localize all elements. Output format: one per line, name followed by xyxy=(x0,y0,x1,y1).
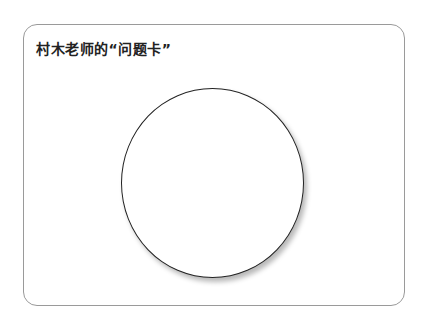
blank-circle xyxy=(121,88,304,278)
card-title: 村木老师的“问题卡” xyxy=(36,38,171,58)
